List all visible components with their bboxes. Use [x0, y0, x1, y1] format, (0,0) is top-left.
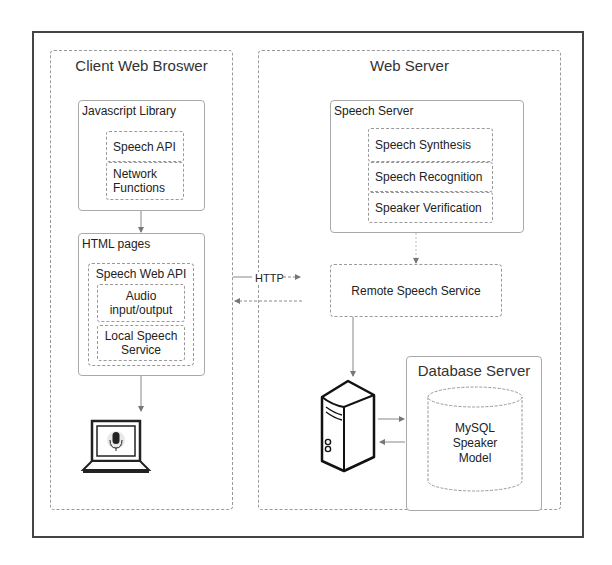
connectors — [0, 0, 612, 565]
